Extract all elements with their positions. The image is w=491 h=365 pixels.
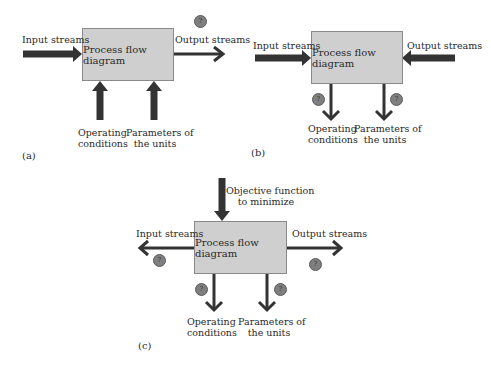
parameters-label: Parameters of the units [238,316,300,338]
parameters-label: Parameters of the units [126,127,184,149]
operating-label-line2: conditions [187,327,235,338]
operating-label-line2: conditions [78,138,124,149]
panel-tag-b: (b) [251,147,265,158]
operating-label-line1: Operating [308,123,354,134]
question-circle-icon: ? [309,258,322,271]
panel-tag-c: (c) [138,340,151,351]
question-circle-icon: ? [153,254,166,267]
parameters-label-line2: the units [238,327,300,338]
process-flow-label: Process flow diagram [83,44,173,66]
question-circle-icon: ? [195,283,208,296]
input-streams-label: Input streams [136,228,203,239]
process-flow-box: Process flow diagram [311,31,403,84]
question-circle-icon: ? [274,283,287,296]
parameters-label: Parameters of the units [354,123,416,145]
output-streams-label: Output streams [175,34,250,45]
parameters-label-line1: Parameters of [126,127,184,138]
output-streams-label: Output streams [407,40,482,51]
objective-function-label: Objective function to minimize [226,185,306,207]
parameters-label-line1: Parameters of [238,316,300,327]
process-flow-label: Process flow diagram [312,47,402,69]
process-flow-label: Process flow diagram [195,237,286,259]
question-circle-icon: ? [312,93,325,106]
operating-conditions-label: Operating conditions [308,123,354,145]
process-flow-box: Process flow diagram [194,221,287,274]
panel-tag-a: (a) [22,150,36,161]
output-streams-label: Output streams [292,228,367,239]
objective-label-line1: Objective function [226,185,306,196]
operating-label-line2: conditions [308,134,354,145]
parameters-label-line2: the units [354,134,416,145]
parameters-label-line1: Parameters of [354,123,416,134]
operating-label-line1: Operating [78,127,124,138]
input-streams-label: Input streams [253,40,320,51]
input-streams-label: Input streams [22,34,89,45]
objective-label-line2: to minimize [226,196,306,207]
question-circle-icon: ? [194,15,207,28]
parameters-label-line2: the units [126,138,184,149]
arrows-layer [0,0,491,365]
question-circle-icon: ? [390,93,403,106]
operating-label-line1: Operating [187,316,235,327]
operating-conditions-label: Operating conditions [78,127,124,149]
process-flow-box: Process flow diagram [82,28,174,81]
operating-conditions-label: Operating conditions [187,316,235,338]
